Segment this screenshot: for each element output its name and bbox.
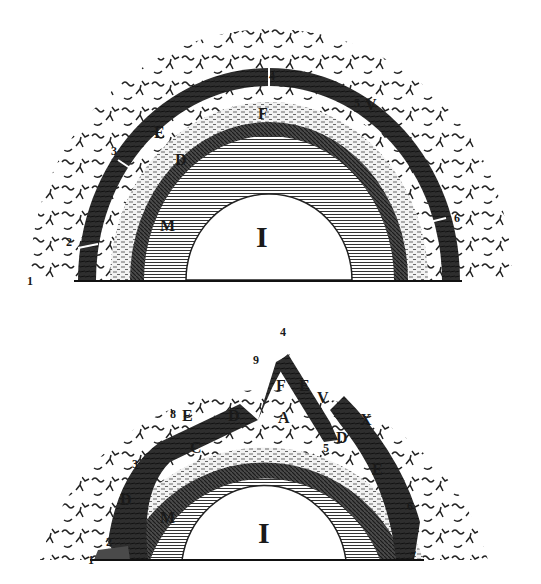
- label-9: 9: [253, 354, 259, 366]
- label-4: 4: [269, 70, 275, 82]
- label-3: 3: [111, 145, 117, 157]
- label-5: 5: [323, 442, 329, 454]
- label-1: 1: [27, 275, 33, 287]
- label-E-right: E: [372, 462, 383, 478]
- label-E: E: [154, 125, 165, 141]
- label-X: X: [360, 412, 372, 428]
- label-E-left: E: [182, 408, 193, 424]
- label-7: 7: [410, 550, 416, 562]
- label-core-I: I: [256, 222, 268, 252]
- label-F: F: [276, 378, 286, 394]
- label-8: 8: [170, 408, 176, 420]
- label-A: A: [278, 410, 290, 426]
- label-6: 6: [407, 500, 413, 512]
- label-1: 1: [88, 554, 94, 566]
- label-2: 2: [106, 536, 112, 548]
- label-4: 4: [280, 326, 286, 338]
- label-V: V: [365, 97, 377, 113]
- label-D: D: [175, 152, 187, 168]
- label-3: 3: [132, 458, 138, 470]
- label-D-top: D: [228, 408, 240, 424]
- label-D-left: D: [120, 492, 132, 508]
- label-core-I: I: [258, 518, 270, 548]
- top-strata-drawing: [0, 0, 541, 292]
- label-E-top: E: [299, 378, 310, 394]
- label-5: 5: [354, 97, 360, 109]
- label-C: C: [190, 440, 202, 456]
- figure-top-cross-section: I M D E F V 1 2 3 4 5 6: [0, 0, 541, 292]
- label-D-right: D: [336, 430, 348, 446]
- label-M: M: [160, 218, 175, 234]
- bottom-strata-drawing: [0, 292, 541, 584]
- label-2: 2: [66, 236, 72, 248]
- label-6: 6: [454, 212, 460, 224]
- label-V: V: [317, 390, 329, 406]
- figure-bottom-cross-section: I M A C D D D E E E F V X 1 2 3 4 5 6 7 …: [0, 292, 541, 584]
- label-M: M: [160, 510, 175, 526]
- label-F: F: [258, 106, 268, 122]
